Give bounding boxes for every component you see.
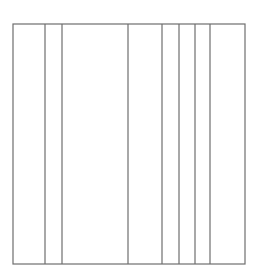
divided-rectangle-diagram [0,0,254,275]
diagram-canvas [0,0,254,275]
vertical-dividers [45,24,210,264]
